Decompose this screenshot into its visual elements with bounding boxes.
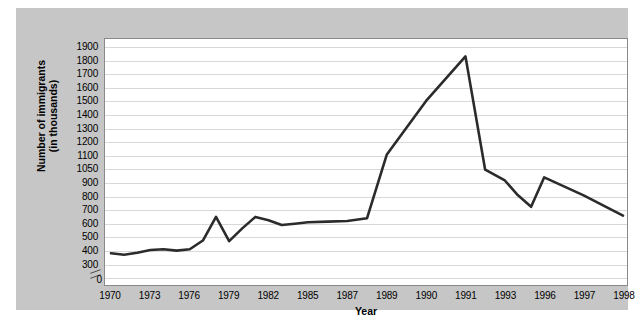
chart-page: Number of immigrants (in thousands) 1900… bbox=[0, 0, 644, 328]
plot-area bbox=[104, 38, 628, 286]
x-axis-tick-1997: 1997 bbox=[574, 290, 595, 301]
x-axis-tick-1989: 1989 bbox=[376, 290, 397, 301]
y-axis-tick-1800: 1800 bbox=[77, 54, 98, 65]
x-axis-tick-1979: 1979 bbox=[218, 290, 239, 301]
y-axis-tick-300: 300 bbox=[82, 258, 98, 269]
y-axis-tick-1300: 1300 bbox=[77, 122, 98, 133]
x-axis-tick-1976: 1976 bbox=[178, 290, 199, 301]
y-axis-tick-400: 400 bbox=[82, 245, 98, 256]
x-axis-tick-labels: 1970197319761979198219851987198919901991… bbox=[104, 290, 628, 306]
x-axis-tick-1970: 1970 bbox=[99, 290, 120, 301]
y-axis-tick-1700: 1700 bbox=[77, 68, 98, 79]
series-line bbox=[111, 56, 623, 254]
y-axis-tick-900: 900 bbox=[82, 177, 98, 188]
chart-panel: Number of immigrants (in thousands) 1900… bbox=[16, 8, 628, 310]
y-axis-tick-500: 500 bbox=[82, 231, 98, 242]
y-axis-tick-1400: 1400 bbox=[77, 109, 98, 120]
x-axis-title: Year bbox=[104, 305, 628, 317]
x-axis-tick-1987: 1987 bbox=[336, 290, 357, 301]
x-axis-tick-1996: 1996 bbox=[534, 290, 555, 301]
y-axis-zero-label: 0 bbox=[94, 274, 102, 285]
x-axis-tick-1973: 1973 bbox=[139, 290, 160, 301]
y-axis-tick-1500: 1500 bbox=[77, 95, 98, 106]
series-layer bbox=[105, 39, 627, 285]
y-axis-tick-800: 800 bbox=[82, 190, 98, 201]
y-axis-tick-1900: 1900 bbox=[77, 41, 98, 52]
y-axis-tick-1100: 1100 bbox=[77, 149, 98, 160]
x-axis-tick-1982: 1982 bbox=[257, 290, 278, 301]
y-axis-tick-700: 700 bbox=[82, 204, 98, 215]
x-axis-tick-1990: 1990 bbox=[416, 290, 437, 301]
y-axis-tick-1200: 1200 bbox=[77, 136, 98, 147]
y-axis-tick-labels: 1900180017001600150014001300120011001050… bbox=[32, 38, 102, 286]
y-axis-tick-600: 600 bbox=[82, 217, 98, 228]
y-axis-tick-1600: 1600 bbox=[77, 81, 98, 92]
y-axis-tick-1050: 1050 bbox=[77, 163, 98, 174]
x-axis-tick-1985: 1985 bbox=[297, 290, 318, 301]
x-axis-tick-1993: 1993 bbox=[495, 290, 516, 301]
x-axis-tick-1998: 1998 bbox=[613, 290, 634, 301]
x-axis-tick-1991: 1991 bbox=[455, 290, 476, 301]
